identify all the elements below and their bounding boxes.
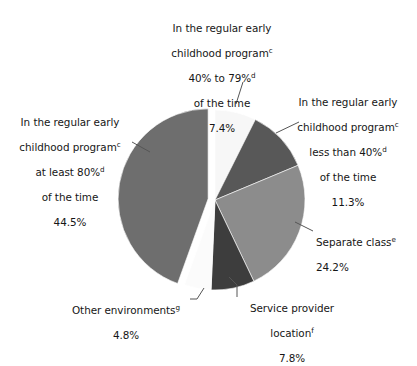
slice-value-other-environments: 4.8% xyxy=(62,329,190,341)
slice-label-pct-lt-40: In the regular early childhood programc … xyxy=(284,84,412,220)
leader-line-other-environments xyxy=(190,288,204,299)
slice-value-service-provider: 7.8% xyxy=(238,352,346,364)
label-line-2: location xyxy=(270,327,311,339)
slice-label-pct-at-least-80: In the regular early childhood programc … xyxy=(6,104,134,240)
footnote-marker-c: c xyxy=(117,140,121,149)
slice-value-separate-class: 24.2% xyxy=(316,261,416,273)
label-line-1: Service provider xyxy=(250,302,334,314)
label-line-4: of the time xyxy=(194,97,251,109)
label-line-1: In the regular early xyxy=(173,22,272,34)
footnote-marker-d: d xyxy=(382,145,387,154)
slice-label-pct-40-79: In the regular early childhood programc … xyxy=(160,10,284,146)
slice-value-pct-lt-40: 11.3% xyxy=(284,196,412,208)
label-line-3: at least 80% xyxy=(35,166,100,178)
footnote-marker-c: c xyxy=(269,46,273,55)
label-line-3: less than 40% xyxy=(309,146,382,158)
footnote-marker-e: e xyxy=(391,235,395,244)
slice-label-other-environments: Other environmentsg 4.8% xyxy=(62,292,190,354)
label-line-4: of the time xyxy=(42,191,99,203)
footnote-marker-c: c xyxy=(395,120,399,129)
footnote-marker-f: f xyxy=(311,326,313,335)
slice-value-pct-at-least-80: 44.5% xyxy=(6,216,134,228)
slice-label-separate-class: Separate classe 24.2% xyxy=(316,224,416,286)
slice-value-pct-40-79: 7.4% xyxy=(160,122,284,134)
label-line-1: In the regular early xyxy=(299,96,398,108)
footnote-marker-d: d xyxy=(100,165,105,174)
slice-label-service-provider: Service provider locationf 7.8% xyxy=(238,290,346,366)
label-line-1: Other environments xyxy=(72,304,176,316)
label-line-1: Separate class xyxy=(316,236,391,248)
label-line-1: In the regular early xyxy=(21,116,120,128)
label-line-2: childhood program xyxy=(171,47,268,59)
footnote-marker-d: d xyxy=(251,71,256,80)
label-line-2: childhood program xyxy=(19,141,116,153)
footnote-marker-g: g xyxy=(175,303,180,312)
label-line-3: 40% to 79% xyxy=(188,72,251,84)
label-line-2: childhood program xyxy=(297,121,394,133)
label-line-4: of the time xyxy=(320,171,377,183)
